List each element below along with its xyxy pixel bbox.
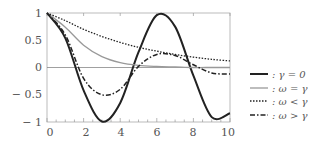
xtick-label: 4: [118, 126, 125, 139]
xtick-label: 10: [221, 126, 235, 139]
xtick-label: 6: [154, 126, 161, 139]
xtick-label: 0: [47, 126, 54, 139]
legend-label: : ω = γ: [272, 83, 307, 94]
ytick-label: 0: [35, 61, 42, 74]
xtick-label: 8: [190, 126, 197, 139]
ytick-label: 0.5: [25, 34, 43, 47]
legend-label: : ω < γ: [272, 96, 307, 107]
ytick-label: − 0.5: [12, 88, 42, 101]
legend: : γ = 0 : ω = γ : ω < γ : ω > γ: [250, 69, 307, 121]
legend-label: : ω > γ: [272, 110, 307, 121]
ytick-label: 1: [35, 7, 42, 20]
ytick-label: − 1: [22, 116, 42, 129]
legend-label: : γ = 0: [272, 69, 306, 80]
xtick-label: 2: [83, 126, 90, 139]
curve-solid-gray: [47, 13, 230, 68]
chart: 1 0.5 0 − 0.5 − 1 0 2 4 6 8 10 : γ = 0 :…: [0, 0, 327, 145]
